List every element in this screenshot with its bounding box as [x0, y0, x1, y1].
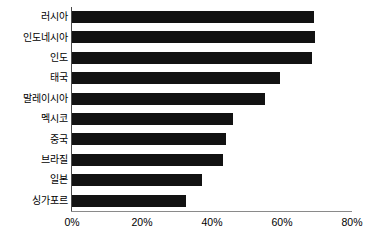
y-axis-label: 태국	[2, 72, 68, 84]
bar	[72, 174, 202, 186]
bar	[72, 154, 223, 166]
x-axis-tick-label: 20%	[117, 215, 167, 229]
chart-title	[0, 0, 367, 7]
bar-row	[72, 150, 352, 170]
y-axis-label: 말레이시아	[2, 93, 68, 105]
bar-row	[72, 27, 352, 47]
y-axis-label: 인도네시아	[2, 32, 68, 44]
bar-row	[72, 191, 352, 211]
plot-area	[72, 7, 352, 211]
bar	[72, 93, 265, 105]
bar-row	[72, 48, 352, 68]
bar	[72, 195, 186, 207]
bar	[72, 31, 315, 43]
bar-row	[72, 89, 352, 109]
bar-row	[72, 68, 352, 88]
y-axis-label: 일본	[2, 174, 68, 186]
x-axis-tick-label: 60%	[257, 215, 307, 229]
bar-chart: 러시아인도네시아인도태국말레이시아멕시코중국브라질일본싱가포르 0%20%40%…	[0, 0, 367, 236]
x-axis-line	[71, 211, 352, 212]
x-axis-tick-labels: 0%20%40%60%80%	[0, 215, 367, 233]
bar-row	[72, 7, 352, 27]
y-axis-label: 인도	[2, 52, 68, 64]
y-axis-label: 싱가포르	[2, 195, 68, 207]
bar-row	[72, 170, 352, 190]
bar	[72, 72, 280, 84]
x-axis-tick-label: 80%	[327, 215, 367, 229]
y-axis-label: 중국	[2, 134, 68, 146]
bar-row	[72, 129, 352, 149]
x-axis-tick-label: 40%	[187, 215, 237, 229]
bar-row	[72, 109, 352, 129]
x-axis-tick-label: 0%	[47, 215, 97, 229]
bar	[72, 133, 226, 145]
y-axis-label: 멕시코	[2, 113, 68, 125]
bar	[72, 113, 233, 125]
bar	[72, 52, 312, 64]
y-axis-category-labels: 러시아인도네시아인도태국말레이시아멕시코중국브라질일본싱가포르	[0, 7, 68, 211]
bar	[72, 11, 314, 23]
y-axis-label: 러시아	[2, 11, 68, 23]
y-axis-label: 브라질	[2, 154, 68, 166]
